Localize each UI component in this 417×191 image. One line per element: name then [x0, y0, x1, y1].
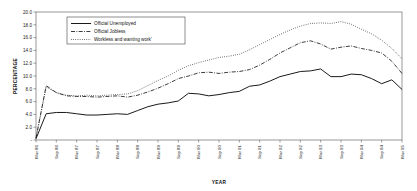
legend-item-label: Official Unemployed — [94, 21, 136, 26]
y-tick-label: 6.0 — [26, 99, 33, 104]
y-tick-label: 12.0 — [23, 61, 32, 66]
y-tick-label: 10.0 — [23, 74, 32, 79]
y-tick-label: 8.0 — [26, 87, 33, 92]
y-tick-label: 18.0 — [23, 23, 32, 28]
x-tick-label: Sep 91 — [257, 144, 262, 158]
x-tick-label: Sep 94 — [379, 144, 384, 158]
y-axis: -2.04.06.08.010.012.014.016.018.020.0 — [23, 10, 36, 143]
x-tick-label: Sep 87 — [95, 144, 100, 158]
y-tick-label: 16.0 — [23, 35, 32, 40]
unemployment-line-chart: -2.04.06.08.010.012.014.016.018.020.0 Ma… — [0, 0, 417, 191]
legend-item-label: Workless and wanting work' — [94, 37, 152, 42]
x-tick-label: Sep 89 — [176, 144, 181, 158]
x-tick-label: Mar 87 — [74, 144, 79, 158]
x-tick-label: Sep 86 — [54, 144, 59, 158]
x-axis: Mar 86Sep 86Mar 87Sep 87Mar 88Sep 88Mar … — [34, 140, 405, 159]
legend-item-label: Official Jobless — [94, 29, 126, 34]
x-tick-label: Mar 93 — [318, 144, 323, 158]
chart-legend: Official UnemployedOfficial JoblessWorkl… — [67, 17, 185, 44]
x-tick-label: Sep 93 — [339, 144, 344, 158]
y-tick-label: 2.0 — [26, 125, 33, 130]
x-tick-label: Mar 89 — [156, 144, 161, 158]
x-tick-label: Mar 94 — [359, 144, 364, 158]
x-tick-label: Mar 92 — [278, 144, 283, 158]
x-axis-title: YEAR — [212, 180, 227, 185]
x-tick-label: Mar 90 — [196, 144, 201, 158]
x-tick-label: Mar 88 — [115, 144, 120, 158]
chart-container: -2.04.06.08.010.012.014.016.018.020.0 Ma… — [0, 0, 417, 191]
x-tick-label: Sep 88 — [135, 144, 140, 158]
x-tick-label: Sep 92 — [298, 144, 303, 158]
x-tick-label: Mar 95 — [400, 144, 405, 158]
y-tick-label: - — [30, 138, 32, 143]
x-tick-label: Sep 90 — [217, 144, 222, 158]
y-tick-label: 14.0 — [23, 48, 32, 53]
y-tick-label: 20.0 — [23, 10, 32, 15]
y-tick-label: 4.0 — [26, 112, 33, 117]
x-tick-label: Mar 91 — [237, 144, 242, 158]
y-axis-title: PERCENTAGE — [13, 58, 18, 94]
x-tick-label: Mar 86 — [34, 144, 39, 158]
